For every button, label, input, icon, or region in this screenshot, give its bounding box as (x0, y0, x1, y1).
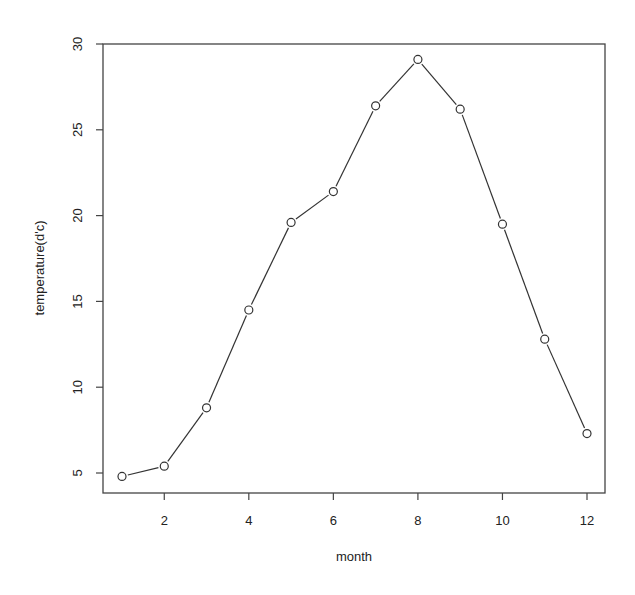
data-point-marker (498, 220, 506, 228)
data-series (118, 55, 591, 480)
line-segment (251, 228, 288, 305)
data-point-marker (245, 306, 253, 314)
x-axis: 24681012 (161, 493, 595, 528)
y-axis: 51015202530 (70, 37, 103, 477)
x-tick-label: 10 (495, 513, 509, 528)
x-tick-label: 4 (245, 513, 252, 528)
data-point-marker (372, 102, 380, 110)
line-segment (505, 230, 543, 334)
data-point-marker (414, 55, 422, 63)
data-point-marker (583, 430, 591, 438)
line-segment (296, 195, 329, 219)
x-tick-label: 8 (414, 513, 421, 528)
y-tick-label: 30 (70, 37, 85, 51)
data-point-marker (160, 462, 168, 470)
y-tick-label: 20 (70, 208, 85, 222)
data-point-marker (541, 335, 549, 343)
line-segment (168, 413, 203, 462)
data-point-marker (287, 218, 295, 226)
data-point-marker (118, 472, 126, 480)
y-tick-label: 25 (70, 123, 85, 137)
x-tick-label: 6 (330, 513, 337, 528)
y-axis-label: temperature(d'c) (32, 221, 47, 316)
line-segment (209, 315, 247, 402)
x-tick-label: 2 (161, 513, 168, 528)
line-segment (380, 64, 414, 101)
line-segment (128, 468, 159, 475)
y-tick-label: 5 (70, 469, 85, 476)
line-segment (462, 115, 500, 219)
line-segment (336, 111, 373, 186)
x-tick-label: 12 (580, 513, 594, 528)
plot-frame (103, 44, 605, 493)
y-tick-label: 15 (70, 294, 85, 308)
line-chart: 51015202530 24681012 month temperature(d… (0, 0, 635, 595)
data-point-marker (456, 105, 464, 113)
x-axis-label: month (336, 549, 372, 564)
data-point-marker (329, 188, 337, 196)
line-segment (422, 64, 457, 105)
y-tick-label: 10 (70, 380, 85, 394)
data-point-marker (203, 404, 211, 412)
line-segment (547, 345, 584, 428)
